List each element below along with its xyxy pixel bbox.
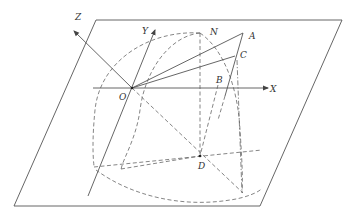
line-a-b [225,33,243,96]
diagram-canvas: Z Y X O N A C B D [0,0,352,219]
sphere-outer-arc [93,33,200,166]
line-b-d [200,85,218,156]
line-b-down [218,96,225,120]
plane-parallelogram [14,20,342,206]
z-axis [74,31,132,88]
label-n: N [209,27,219,37]
label-d: D [197,161,205,171]
line-o-d [132,88,243,193]
label-o: O [119,92,127,102]
ray-o-a [132,33,243,88]
point-o-dot [131,87,134,90]
point-d-dot [199,155,202,158]
base-arc [96,170,262,202]
geometry-diagram: Z Y X O N A C B D [0,0,352,219]
label-c: C [240,50,247,60]
label-y: Y [142,26,149,36]
label-x: X [269,84,277,94]
label-z: Z [74,12,82,22]
label-b: B [215,75,223,85]
sphere-inner-arc [121,33,200,170]
line-d-left [94,150,262,167]
label-a: A [248,31,256,41]
line-d-lowleft [121,156,200,169]
